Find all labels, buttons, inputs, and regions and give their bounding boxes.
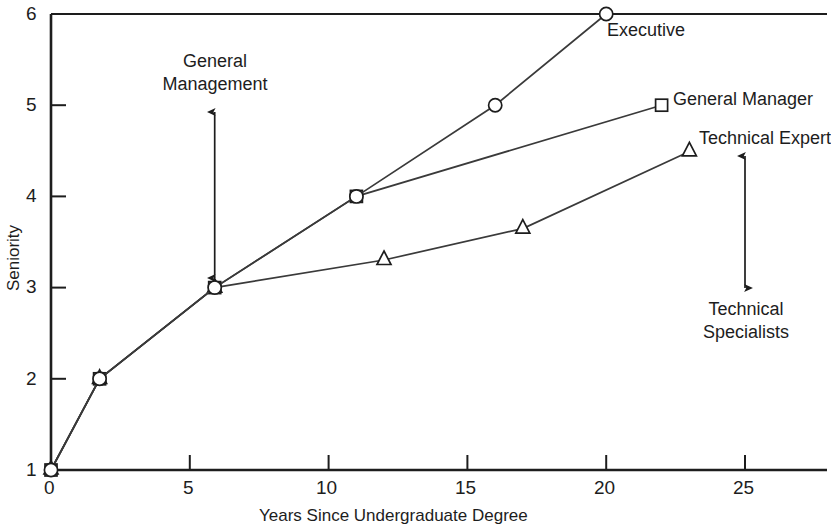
series-label-executive: Executive bbox=[607, 20, 685, 41]
series-label-general-manager: General Manager bbox=[673, 89, 813, 110]
annotation-label-general-management-line2: Management bbox=[152, 74, 278, 95]
x-axis-ticks bbox=[190, 455, 745, 470]
y-axis-title-wrapper: Seniority bbox=[0, 198, 26, 318]
y-tick-label-3: 3 bbox=[26, 276, 37, 298]
x-tick-label-15: 15 bbox=[455, 477, 476, 499]
annotation-label-general-management-line1: General bbox=[152, 51, 278, 72]
series-label-technical-expert: Technical Expert bbox=[699, 128, 831, 149]
annotation-label-technical-specialists-line2: Specialists bbox=[686, 322, 806, 343]
y-axis-ticks bbox=[51, 105, 66, 379]
x-tick-label-25: 25 bbox=[733, 477, 754, 499]
marker-square-group bbox=[45, 99, 668, 476]
annotation-label-technical-specialists-line1: Technical bbox=[686, 299, 806, 320]
x-tick-label-10: 10 bbox=[316, 477, 337, 499]
x-tick-label-20: 20 bbox=[594, 477, 615, 499]
x-tick-label-5: 5 bbox=[183, 477, 194, 499]
series-general-manager bbox=[45, 99, 668, 476]
y-tick-label-2: 2 bbox=[26, 368, 37, 390]
y-tick-label-1: 1 bbox=[26, 459, 37, 481]
x-axis-title: Years Since Undergraduate Degree bbox=[259, 506, 528, 526]
y-tick-label-6: 6 bbox=[26, 3, 37, 25]
y-axis-title: Seniority bbox=[4, 203, 24, 313]
y-tick-label-4: 4 bbox=[26, 185, 37, 207]
x-tick-label-0: 0 bbox=[44, 477, 55, 499]
series-executive bbox=[44, 7, 612, 476]
y-tick-label-5: 5 bbox=[26, 94, 37, 116]
